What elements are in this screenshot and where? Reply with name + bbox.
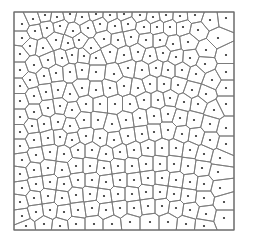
site-point bbox=[95, 13, 97, 15]
voronoi-cell bbox=[211, 178, 234, 197]
site-point bbox=[133, 207, 135, 209]
site-point bbox=[149, 221, 151, 223]
site-point bbox=[19, 53, 21, 55]
site-point bbox=[119, 207, 121, 209]
site-point bbox=[33, 95, 35, 97]
site-point bbox=[161, 147, 163, 149]
site-point bbox=[47, 167, 49, 169]
site-point bbox=[47, 107, 49, 109]
site-point bbox=[19, 100, 21, 102]
site-point bbox=[97, 119, 99, 121]
site-point bbox=[219, 157, 221, 159]
site-point bbox=[49, 209, 51, 211]
site-point bbox=[147, 147, 149, 149]
site-point bbox=[117, 193, 119, 195]
site-point bbox=[113, 73, 115, 75]
site-point bbox=[187, 165, 189, 167]
site-point bbox=[34, 30, 36, 32]
site-point bbox=[123, 13, 125, 15]
site-point bbox=[167, 221, 169, 223]
site-point bbox=[105, 181, 107, 183]
site-point bbox=[44, 14, 46, 16]
site-point bbox=[63, 211, 65, 213]
site-point bbox=[71, 109, 73, 111]
site-point bbox=[103, 195, 105, 197]
site-point bbox=[69, 125, 71, 127]
site-point bbox=[125, 119, 127, 121]
site-point bbox=[169, 97, 171, 99]
site-point bbox=[119, 151, 121, 153]
voronoi-cell bbox=[35, 216, 53, 230]
site-point bbox=[95, 71, 97, 73]
site-point bbox=[29, 79, 31, 81]
site-point bbox=[127, 135, 129, 137]
site-point bbox=[71, 54, 73, 56]
site-point bbox=[153, 131, 155, 133]
site-point bbox=[129, 103, 131, 105]
site-point bbox=[172, 43, 174, 45]
site-point bbox=[167, 69, 169, 71]
site-point bbox=[162, 52, 164, 54]
site-point bbox=[143, 26, 145, 28]
site-point bbox=[183, 101, 185, 103]
site-point bbox=[57, 121, 59, 123]
site-point bbox=[175, 207, 177, 209]
site-point bbox=[42, 47, 44, 49]
site-point bbox=[182, 26, 184, 28]
voronoi-cell bbox=[177, 20, 192, 37]
voronoi-cell bbox=[103, 113, 121, 133]
site-point bbox=[31, 125, 33, 127]
site-point bbox=[83, 55, 85, 57]
voronoi-cell bbox=[206, 27, 234, 49]
site-point bbox=[21, 187, 23, 189]
site-point bbox=[91, 207, 93, 209]
site-point bbox=[169, 26, 171, 28]
site-point bbox=[145, 39, 147, 41]
site-point bbox=[33, 111, 35, 113]
site-point bbox=[225, 87, 227, 89]
voronoi-cell bbox=[83, 37, 101, 54]
site-point bbox=[29, 45, 31, 47]
site-point bbox=[19, 69, 21, 71]
site-point bbox=[187, 41, 189, 43]
site-point bbox=[32, 18, 34, 20]
site-point bbox=[87, 27, 89, 29]
site-point bbox=[19, 145, 21, 147]
site-point bbox=[21, 159, 23, 161]
site-point bbox=[179, 117, 181, 119]
voronoi-cell bbox=[103, 12, 117, 23]
site-point bbox=[159, 163, 161, 165]
site-point bbox=[72, 30, 74, 32]
site-point bbox=[45, 91, 47, 93]
voronoi-cell bbox=[73, 32, 89, 49]
site-point bbox=[127, 23, 129, 25]
voronoi-cell bbox=[14, 166, 29, 182]
site-point bbox=[21, 23, 23, 25]
voronoi-cell bbox=[132, 12, 147, 23]
voronoi-cell bbox=[14, 218, 36, 230]
site-point bbox=[209, 139, 211, 141]
site-point bbox=[35, 154, 37, 156]
site-point bbox=[197, 29, 199, 31]
site-point bbox=[49, 151, 51, 153]
site-point bbox=[114, 103, 116, 105]
site-point bbox=[111, 123, 113, 125]
site-point bbox=[19, 173, 21, 175]
site-point bbox=[69, 71, 71, 73]
site-point bbox=[85, 103, 87, 105]
site-point bbox=[167, 113, 169, 115]
voronoi-cell bbox=[215, 64, 234, 81]
site-point bbox=[95, 57, 97, 59]
site-point bbox=[99, 137, 101, 139]
voronoi-cell bbox=[216, 136, 234, 156]
site-point bbox=[161, 205, 163, 207]
voronoi-cell bbox=[88, 65, 106, 81]
site-point bbox=[19, 116, 21, 118]
site-point bbox=[117, 165, 119, 167]
site-point bbox=[75, 165, 77, 167]
site-point bbox=[55, 39, 57, 41]
site-point bbox=[149, 55, 151, 57]
site-point bbox=[131, 193, 133, 195]
site-point bbox=[201, 167, 203, 169]
site-point bbox=[203, 153, 205, 155]
